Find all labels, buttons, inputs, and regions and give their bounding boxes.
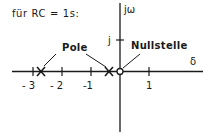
tick-label-minus-1: -1 xyxy=(83,80,93,91)
zero-marker xyxy=(117,69,123,75)
zero-leader-line xyxy=(123,54,140,68)
diagram-title: für RC = 1s: xyxy=(12,8,79,19)
imag-tick-label: j xyxy=(107,35,111,46)
tick-label-minus-2: - 2 xyxy=(50,80,63,91)
poles-leader-line-1 xyxy=(44,54,56,66)
zero-annotation: Nullstelle xyxy=(131,40,188,51)
tick-label-minus-3: - 3 xyxy=(22,80,35,91)
imaginary-axis-label: jω xyxy=(123,4,135,15)
tick-label-1: 1 xyxy=(146,80,152,91)
poles-annotation: Pole xyxy=(62,42,88,53)
poles-leader-line-2 xyxy=(86,54,106,67)
real-axis-label: δ xyxy=(190,56,196,67)
pole-zero-diagram: für RC = 1s: δ jω j - 3 - 2 -1 1 Pole Nu… xyxy=(0,0,211,138)
